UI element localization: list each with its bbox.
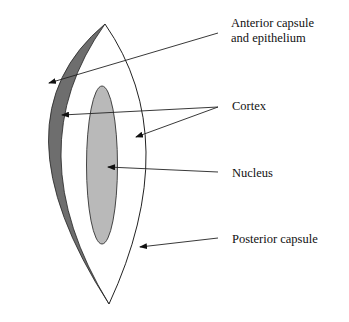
- anterior-capsule-label-line1: Anterior capsule: [231, 16, 314, 31]
- anterior-capsule-label-line2: and epithelium: [231, 31, 314, 46]
- posterior-capsule-label: Posterior capsule: [232, 232, 318, 247]
- posterior-capsule-pointer: [140, 238, 218, 247]
- cortex-label: Cortex: [232, 99, 266, 114]
- nucleus-pointer: [108, 167, 218, 172]
- nucleus-label: Nucleus: [232, 166, 273, 181]
- cortex-pointer-left: [62, 107, 218, 115]
- cortex-pointer-right: [136, 107, 218, 137]
- nucleus-shape: [87, 86, 118, 244]
- lens-diagram: [0, 0, 349, 322]
- anterior-capsule-label: Anterior capsule and epithelium: [231, 16, 314, 46]
